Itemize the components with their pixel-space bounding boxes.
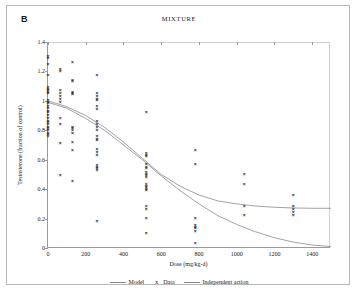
data-point: × [144,154,149,159]
data-point: × [70,92,75,97]
data-point: × [46,91,51,96]
data-point: × [95,219,100,224]
data-point: × [291,213,296,218]
data-point: × [70,148,75,153]
data-point: × [46,56,51,61]
data-point: × [95,153,100,158]
y-tick-label: 1.2 [38,68,46,74]
data-point: × [58,173,63,178]
data-point: × [193,148,198,153]
data-point: × [193,241,198,246]
data-point: × [242,182,247,187]
data-point: × [242,213,247,218]
x-tick-label: 1000 [231,251,243,257]
legend-label: Data [163,279,174,285]
legend-line-icon [184,282,200,283]
data-point: × [70,131,75,136]
data-point: × [242,204,247,209]
data-point: × [70,179,75,184]
legend: Model x Data Independent action [7,279,351,285]
x-tick-label: 0 [47,251,50,257]
data-point: × [58,122,63,127]
y-tick-label: 0.8 [38,127,46,133]
y-axis-label-text: Testosterone (fraction of control) [17,105,23,184]
figure-container: B MIXTURE Testosterone (fraction of cont… [6,5,350,285]
data-point: × [70,140,75,145]
legend-label: Independent action [203,279,249,285]
data-point: × [144,110,149,115]
data-point: × [144,188,149,193]
data-point: × [46,134,51,139]
data-point: × [70,79,75,84]
y-tick-mark [45,248,48,249]
data-point: × [95,73,100,78]
x-tick-label: 200 [81,251,90,257]
chart-title: MIXTURE [7,15,351,22]
y-tick-label: 0.6 [38,157,46,163]
legend-line-icon [110,282,126,283]
x-tick-label: 1400 [306,251,318,257]
x-tick-label: 800 [194,251,203,257]
data-point: × [46,73,51,78]
x-marker-icon: x [153,279,160,285]
data-point: × [46,62,51,67]
curve-layer [48,42,331,248]
x-tick-label: 1200 [268,251,280,257]
legend-item-data: x Data [153,279,174,285]
data-point: × [291,193,296,198]
data-point: × [58,141,63,146]
data-point: × [193,162,198,167]
y-axis-label: Testosterone (fraction of control) [14,42,26,248]
y-tick-label: 0.2 [38,216,46,222]
data-point: × [144,175,149,180]
legend-label: Model [129,279,145,285]
y-tick-label: 0.4 [38,186,46,192]
curve-model [48,101,331,208]
x-tick-label: 600 [157,251,166,257]
x-tick-label: 400 [119,251,128,257]
legend-item-independent-action: Independent action [184,279,249,285]
data-point: × [144,216,149,221]
data-point: × [144,207,149,212]
data-point: × [242,172,247,177]
data-point: × [193,216,198,221]
data-point: × [95,138,100,143]
curve-independent-action [48,102,331,246]
y-tick-label: 1.4 [38,39,46,45]
data-point: × [144,231,149,236]
data-point: × [70,60,75,65]
legend-item-model: Model [110,279,145,285]
data-point: × [95,107,100,112]
data-point: × [58,100,63,105]
data-point: × [95,168,100,173]
data-point: × [58,69,63,74]
x-axis-label: Dose (mg/kg-d) [47,261,330,267]
data-point: × [193,229,198,234]
plot-area: 00.20.40.60.811.21.4 0200400600800100012… [47,42,330,248]
